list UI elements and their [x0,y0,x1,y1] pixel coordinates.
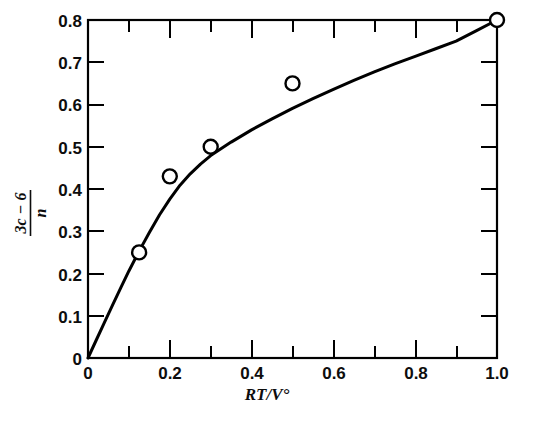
x-tick-label: 0.8 [404,364,428,383]
data-point-marker [204,140,218,154]
y-axis-title-denominator: n [32,208,49,217]
x-tick-label: 1.0 [485,364,509,383]
y-tick-label: 0.4 [58,181,82,200]
y-tick-label: 0.2 [58,266,82,285]
x-axis-ticks-bottom [129,340,457,358]
x-tick-label: 0 [83,364,92,383]
x-tick-label: 0.2 [158,364,182,383]
y-axis-tick-labels: 0.8 0.7 0.6 0.5 0.4 0.3 0.2 0.1 0 [58,12,82,369]
plot-frame [88,20,497,358]
data-point-marker [132,245,146,259]
y-axis-title-numerator: 3c − 6 [12,193,29,235]
data-point-marker [163,169,177,183]
data-point-marker [286,76,300,90]
figure-caption-clipped [0,413,534,426]
chart-figure: 0.8 0.7 0.6 0.5 0.4 0.3 0.2 0.1 0 0 0.2 … [0,0,534,426]
y-tick-label: 0.7 [58,54,82,73]
data-curve [88,20,497,358]
data-point-markers [132,13,504,259]
x-axis-tick-labels: 0 0.2 0.4 0.6 0.8 1.0 [83,364,509,383]
x-tick-label: 0.4 [240,364,264,383]
y-axis-ticks-left [88,20,104,316]
y-axis-title: 3c − 6 n [12,190,49,236]
x-axis-ticks-top [129,20,457,38]
y-tick-label: 0.1 [58,308,82,327]
x-tick-label: 0.6 [322,364,346,383]
y-tick-label: 0.8 [58,12,82,31]
y-tick-label: 0.6 [58,96,82,115]
x-axis-title: RT/V° [244,385,290,404]
data-point-marker [490,13,504,27]
y-tick-label: 0.3 [58,223,82,242]
chart-svg: 0.8 0.7 0.6 0.5 0.4 0.3 0.2 0.1 0 0 0.2 … [0,0,534,426]
y-tick-label: 0.5 [58,139,82,158]
y-axis-ticks-right [481,62,497,316]
y-tick-label: 0 [73,350,82,369]
